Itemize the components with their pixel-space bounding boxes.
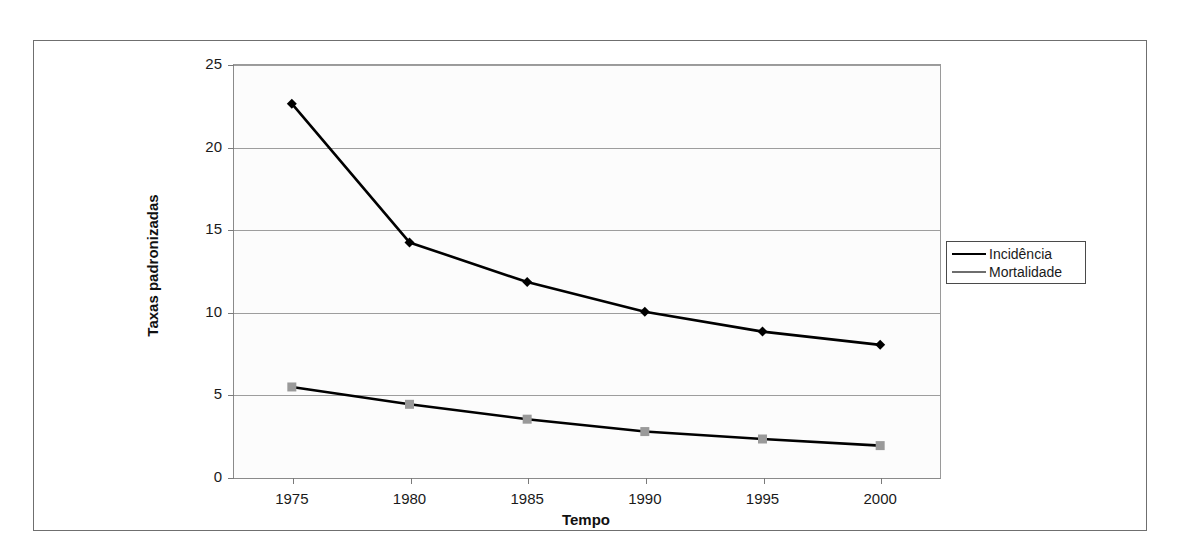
data-point-marker [640, 307, 650, 317]
x-axis-title: Tempo [233, 511, 939, 528]
diamond-icon [952, 247, 986, 261]
x-tick-label: 1985 [487, 491, 567, 506]
legend-item-incidencia: Incidência [952, 245, 1080, 263]
y-tick-mark [228, 478, 234, 479]
series-line-mortalidade [292, 387, 880, 446]
y-axis-title: Taxas padronizadas [144, 186, 161, 346]
y-tick-label: 10 [205, 304, 222, 319]
y-tick-label: 15 [205, 221, 222, 236]
chart-figure-frame: 0510152025 197519801985199019952000 Taxa… [33, 40, 1147, 531]
data-point-marker [758, 435, 767, 444]
data-point-marker [876, 441, 885, 450]
x-tick-label: 1980 [370, 491, 450, 506]
data-point-marker [287, 382, 296, 391]
x-tick-label: 1990 [605, 491, 685, 506]
data-point-marker [405, 400, 414, 409]
chart-legend: Incidência Mortalidade [946, 241, 1086, 284]
data-point-marker [875, 340, 885, 350]
x-tick-label: 1975 [252, 491, 332, 506]
x-tick-mark [764, 478, 765, 484]
line-chart: 0510152025 197519801985199019952000 Taxa… [34, 41, 1148, 532]
data-point-marker [640, 427, 649, 436]
x-tick-label: 1995 [723, 491, 803, 506]
x-tick-mark [528, 478, 529, 484]
data-point-marker [758, 327, 768, 337]
y-tick-label: 5 [214, 386, 222, 401]
legend-item-mortalidade: Mortalidade [952, 263, 1080, 281]
x-tick-mark [293, 478, 294, 484]
y-tick-label: 25 [205, 56, 222, 71]
x-tick-mark [646, 478, 647, 484]
x-tick-mark [411, 478, 412, 484]
y-tick-label: 20 [205, 139, 222, 154]
data-point-marker [523, 415, 532, 424]
legend-label-mortalidade: Mortalidade [989, 265, 1062, 279]
x-tick-label: 2000 [840, 491, 920, 506]
series-layer [233, 64, 939, 477]
y-tick-label: 0 [214, 469, 222, 484]
legend-label-incidencia: Incidência [989, 247, 1052, 261]
square-icon [952, 265, 986, 279]
data-point-marker [522, 277, 532, 287]
series-line-incidência [292, 104, 880, 345]
x-tick-mark [881, 478, 882, 484]
